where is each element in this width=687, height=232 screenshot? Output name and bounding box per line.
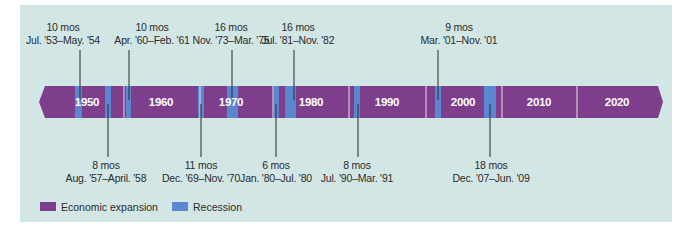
decade-label: 1980 — [299, 86, 323, 118]
legend-recession-label: Recession — [193, 201, 242, 213]
recession-period: Dec. '07–Jun. '09 — [452, 172, 529, 185]
recession-duration: 10 mos — [26, 21, 100, 34]
decade-label: 2010 — [527, 86, 551, 118]
recession-period: Apr. '60–Feb. '61 — [114, 34, 189, 47]
recession-band — [354, 86, 360, 118]
legend-expansion: Economic expansion — [40, 200, 158, 213]
recession-label: 16 mosNov. '73–Mar. '75 — [193, 21, 270, 47]
recession-duration: 6 mos — [240, 159, 312, 172]
recession-duration: 9 mos — [421, 21, 498, 34]
expansion-swatch — [40, 202, 56, 211]
recession-label: 6 mosJan. '80–Jul. '80 — [240, 159, 312, 185]
decade-label: 2000 — [451, 86, 475, 118]
decade-label: 1960 — [149, 86, 173, 118]
decade-label: 1950 — [75, 86, 99, 118]
decade-label: 2020 — [605, 86, 629, 118]
recession-label: 10 mosJul. '53–May. '54 — [26, 21, 100, 47]
recession-label: 18 mosDec. '07–Jun. '09 — [452, 159, 529, 185]
recession-swatch — [172, 202, 188, 211]
recession-duration: 10 mos — [114, 21, 189, 34]
legend-expansion-label: Economic expansion — [61, 201, 158, 213]
recession-duration: 8 mos — [321, 159, 393, 172]
recession-period: Mar. '01–Nov. '01 — [421, 34, 498, 47]
timeline-bar — [0, 0, 687, 232]
recession-label: 10 mosApr. '60–Feb. '61 — [114, 21, 189, 47]
expansion-bar — [39, 86, 663, 118]
recession-period: Nov. '73–Mar. '75 — [193, 34, 270, 47]
recession-label: 9 mosMar. '01–Nov. '01 — [421, 21, 498, 47]
recession-duration: 16 mos — [193, 21, 270, 34]
recession-duration: 8 mos — [66, 159, 147, 172]
recession-period: Jul. '53–May. '54 — [26, 34, 100, 47]
decade-label: 1990 — [375, 86, 399, 118]
recession-label: 8 mosAug. '57–April. '58 — [66, 159, 147, 185]
recession-period: Aug. '57–April. '58 — [66, 172, 147, 185]
decade-label: 1970 — [219, 86, 243, 118]
recession-period: Jul. '81–Nov. '82 — [262, 34, 335, 47]
recession-duration: 18 mos — [452, 159, 529, 172]
recession-period: Jan. '80–Jul. '80 — [240, 172, 312, 185]
recession-label: 11 mosDec. '69–Nov. '70 — [162, 159, 240, 185]
recession-label: 8 mosJul. '90–Mar. '91 — [321, 159, 393, 185]
recession-duration: 11 mos — [162, 159, 240, 172]
recession-period: Dec. '69–Nov. '70 — [162, 172, 240, 185]
recession-duration: 16 mos — [262, 21, 335, 34]
legend-recession: Recession — [172, 200, 242, 213]
recession-period: Jul. '90–Mar. '91 — [321, 172, 393, 185]
recession-label: 16 mosJul. '81–Nov. '82 — [262, 21, 335, 47]
